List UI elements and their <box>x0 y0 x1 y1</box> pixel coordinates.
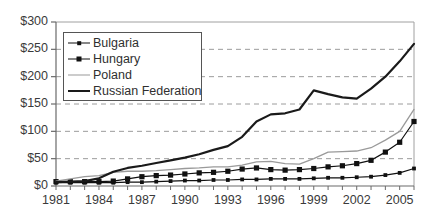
y-axis-label: $0 <box>0 178 48 192</box>
series-marker-bulgaria <box>169 179 173 183</box>
series-marker-hungary <box>283 168 288 173</box>
series-marker-bulgaria <box>326 176 330 180</box>
x-axis-label: 1999 <box>295 193 333 207</box>
series-marker-hungary <box>383 150 388 155</box>
y-axis-label: $200 <box>0 69 48 83</box>
legend-label: Bulgaria <box>93 36 139 50</box>
chart-legend: BulgariaHungaryPolandRussian Federation <box>63 32 202 101</box>
series-marker-hungary <box>197 170 202 175</box>
legend-swatch-icon <box>68 36 90 50</box>
series-marker-hungary <box>182 171 187 176</box>
series-marker-hungary <box>397 140 402 145</box>
x-axis-label: 2005 <box>381 193 419 207</box>
series-marker-bulgaria <box>341 176 345 180</box>
series-marker-bulgaria <box>212 178 216 182</box>
legend-item-bulgaria: Bulgaria <box>64 35 201 51</box>
legend-swatch-icon <box>68 52 90 66</box>
series-marker-hungary <box>211 170 216 175</box>
y-axis-label: $250 <box>0 41 48 55</box>
legend-marker-icon <box>77 57 82 62</box>
series-marker-hungary <box>340 163 345 168</box>
series-marker-hungary <box>268 167 273 172</box>
y-axis-label: $50 <box>0 151 48 165</box>
legend-label: Hungary <box>93 52 140 66</box>
series-marker-hungary <box>411 119 416 124</box>
series-marker-bulgaria <box>412 167 416 171</box>
series-marker-hungary <box>254 165 259 170</box>
series-marker-bulgaria <box>283 177 287 181</box>
series-marker-hungary <box>154 173 159 178</box>
legend-swatch-icon <box>68 84 90 98</box>
series-marker-bulgaria <box>369 175 373 179</box>
series-marker-hungary <box>325 164 330 169</box>
series-marker-bulgaria <box>197 179 201 183</box>
x-axis-label: 1987 <box>123 193 161 207</box>
y-axis-label: $300 <box>0 14 48 28</box>
x-axis-label: 1990 <box>166 193 204 207</box>
series-marker-bulgaria <box>255 178 259 182</box>
series-marker-bulgaria <box>140 180 144 184</box>
legend-item-russian-federation: Russian Federation <box>64 83 201 99</box>
line-chart: BulgariaHungaryPolandRussian Federation … <box>0 0 442 216</box>
series-marker-bulgaria <box>398 171 402 175</box>
series-marker-bulgaria <box>298 177 302 181</box>
series-marker-hungary <box>297 167 302 172</box>
y-axis-label: $100 <box>0 123 48 137</box>
series-marker-hungary <box>111 178 116 183</box>
series-marker-bulgaria <box>154 180 158 184</box>
x-axis-label: 1993 <box>209 193 247 207</box>
legend-swatch-icon <box>68 68 90 82</box>
x-axis-label: 1984 <box>80 193 118 207</box>
legend-label: Poland <box>93 68 132 82</box>
series-marker-bulgaria <box>183 179 187 183</box>
x-axis-label: 1981 <box>37 193 75 207</box>
series-marker-hungary <box>125 176 130 181</box>
series-marker-hungary <box>168 172 173 177</box>
series-marker-hungary <box>368 158 373 163</box>
series-marker-bulgaria <box>240 178 244 182</box>
y-axis-label: $150 <box>0 96 48 110</box>
legend-item-hungary: Hungary <box>64 51 201 67</box>
series-marker-bulgaria <box>355 175 359 179</box>
series-marker-hungary <box>354 161 359 166</box>
series-marker-bulgaria <box>269 177 273 181</box>
series-marker-hungary <box>240 166 245 171</box>
series-marker-hungary <box>225 169 230 174</box>
series-marker-hungary <box>311 166 316 171</box>
series-marker-bulgaria <box>312 176 316 180</box>
x-axis-label: 1996 <box>252 193 290 207</box>
series-marker-bulgaria <box>383 173 387 177</box>
x-axis-label: 2002 <box>338 193 376 207</box>
legend-label: Russian Federation <box>93 84 201 98</box>
legend-marker-icon <box>77 41 81 45</box>
series-marker-hungary <box>139 174 144 179</box>
series-marker-bulgaria <box>226 178 230 182</box>
legend-item-poland: Poland <box>64 67 201 83</box>
